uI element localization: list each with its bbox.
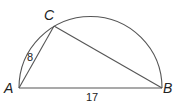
point-label-b: B: [163, 80, 172, 96]
segment-label-ab: 17: [86, 91, 98, 103]
semicircle-arc: [19, 16, 162, 88]
point-label-a: A: [3, 80, 13, 96]
segment-label-ac: 8: [27, 51, 33, 63]
semicircle-triangle-diagram: C A B 8 17: [0, 0, 179, 108]
segment-ac: [19, 26, 54, 88]
segment-cb: [54, 26, 162, 88]
point-label-c: C: [44, 7, 55, 23]
